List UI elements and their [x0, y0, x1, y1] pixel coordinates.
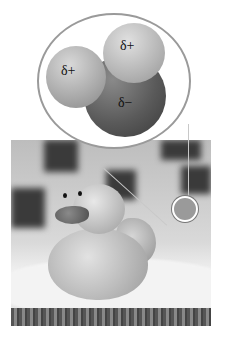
- bath-rug: [11, 308, 211, 326]
- charge-label-h-right: δ+: [120, 38, 135, 54]
- water-molecule-inset: δ+ δ+ δ−: [37, 13, 197, 153]
- charge-label-oxygen: δ−: [118, 95, 133, 111]
- duck-body: [48, 228, 148, 300]
- hydrogen-atom-left: [46, 46, 106, 108]
- charge-label-h-left: δ+: [61, 63, 76, 79]
- duck-eye: [63, 193, 67, 198]
- magnified-spot: [172, 196, 198, 222]
- caption-fragment: [0, 0, 227, 4]
- rubber-duck-photo: [11, 140, 211, 326]
- duck-beak: [55, 206, 89, 224]
- duck-eye: [78, 191, 82, 196]
